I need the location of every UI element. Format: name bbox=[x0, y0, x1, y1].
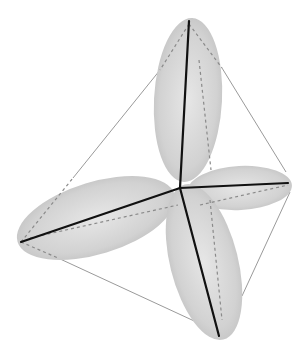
diagram-canvas bbox=[0, 0, 307, 356]
edge-top-left bbox=[73, 70, 160, 178]
edge-top-right bbox=[222, 68, 286, 172]
orbital-lobes bbox=[7, 16, 293, 348]
lobe-left bbox=[7, 160, 185, 277]
tetrahedral-orbital-diagram bbox=[0, 0, 307, 356]
